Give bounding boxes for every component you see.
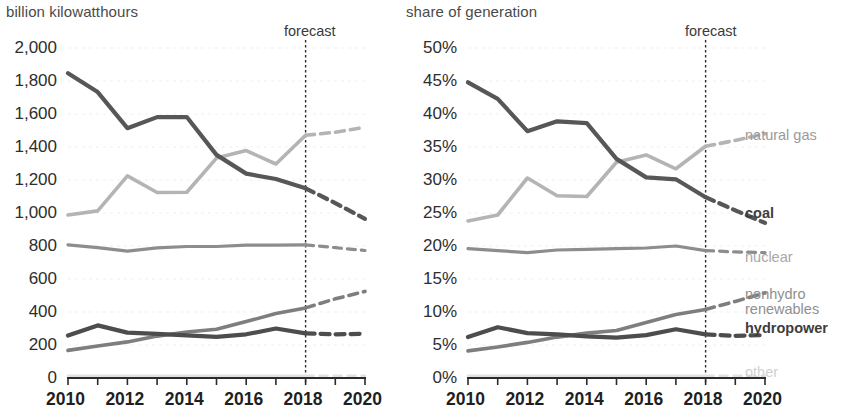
right-chart-y-tick-8: 10%: [423, 303, 457, 320]
right-chart-forecast-label: forecast: [685, 23, 737, 39]
right-chart-y-tick-9: 5%: [432, 336, 457, 353]
left-series-coal-forecast: [306, 188, 365, 219]
right-chart-y-tick-3: 35%: [423, 138, 457, 155]
left-chart-y-tick-10: 0: [48, 369, 57, 386]
left-series-hydropower-historical: [68, 325, 306, 337]
left-chart-y-tick-0: 2,000: [14, 39, 57, 56]
left-chart-x-tick-2010: 2010: [46, 391, 85, 409]
left-series-natural-gas-forecast: [306, 127, 365, 135]
left-chart-y-tick-2: 1,600: [14, 105, 57, 122]
left-chart-y-tick-9: 200: [29, 336, 57, 353]
left-chart-x-tick-2020: 2020: [343, 391, 382, 409]
legend-item-other: other: [745, 365, 778, 381]
left-series-nuclear-forecast: [306, 245, 365, 251]
left-chart-forecast-label: forecast: [284, 23, 336, 39]
left-chart-x-tick-2014: 2014: [165, 391, 204, 409]
right-chart-x-tick-2020: 2020: [743, 391, 782, 409]
legend-item-coal: coal: [745, 206, 774, 222]
left-series-natural-gas-historical: [68, 135, 306, 215]
legend-item-natural-gas: natural gas: [745, 128, 817, 144]
left-chart-x-tick-2018: 2018: [284, 391, 323, 409]
left-chart-y-tick-8: 400: [29, 303, 57, 320]
left-chart-y-tick-4: 1,200: [14, 171, 57, 188]
right-chart-y-tick-2: 40%: [423, 105, 457, 122]
right-series-natural-gas-historical: [468, 146, 706, 221]
right-chart-x-tick-2016: 2016: [624, 391, 663, 409]
right-chart-y-tick-7: 15%: [423, 270, 457, 287]
left-chart-y-tick-5: 1,000: [14, 204, 57, 221]
right-chart-plot: [400, 0, 850, 417]
right-chart-y-tick-5: 25%: [423, 204, 457, 221]
left-chart-plot: [0, 0, 425, 417]
right-chart-x-tick-2010: 2010: [446, 391, 485, 409]
left-series-nonhydro-renewables-forecast: [306, 291, 365, 308]
legend-item-nonhydro-renewables-line2: renewables: [745, 302, 819, 318]
left-chart-axis-title: billion kilowatthours: [6, 3, 138, 20]
legend-item-hydropower: hydropower: [745, 321, 828, 337]
left-series-coal-historical: [68, 73, 306, 188]
legend-item-nuclear: nuclear: [745, 250, 793, 266]
left-series-nuclear-historical: [68, 245, 306, 251]
right-chart-x-tick-2018: 2018: [684, 391, 723, 409]
right-chart-y-tick-4: 30%: [423, 171, 457, 188]
right-chart-y-tick-1: 45%: [423, 72, 457, 89]
left-series-hydropower-forecast: [306, 333, 365, 334]
left-series-nonhydro-renewables-historical: [68, 308, 306, 351]
right-chart-y-tick-10: 0%: [432, 369, 457, 386]
right-series-hydropower-historical: [468, 327, 706, 338]
right-series-coal-historical: [468, 82, 706, 197]
chart-panel-generation-share: share of generation forecast 50%45%40%35…: [400, 0, 850, 417]
chart-panel-generation-absolute: billion kilowatthours forecast 2,0001,80…: [0, 0, 425, 417]
left-chart-x-tick-2012: 2012: [105, 391, 144, 409]
right-chart-y-tick-0: 50%: [423, 39, 457, 56]
right-chart-y-tick-6: 20%: [423, 237, 457, 254]
right-chart-x-tick-2014: 2014: [565, 391, 604, 409]
right-series-nonhydro-renewables-historical: [468, 309, 706, 351]
left-chart-y-tick-7: 600: [29, 270, 57, 287]
right-chart-axis-title: share of generation: [406, 3, 537, 20]
left-chart-y-tick-3: 1,400: [14, 138, 57, 155]
right-chart-x-tick-2012: 2012: [505, 391, 544, 409]
right-series-nuclear-historical: [468, 246, 706, 253]
left-chart-x-tick-2016: 2016: [224, 391, 263, 409]
left-chart-y-tick-6: 800: [29, 237, 57, 254]
left-chart-y-tick-1: 1,800: [14, 72, 57, 89]
